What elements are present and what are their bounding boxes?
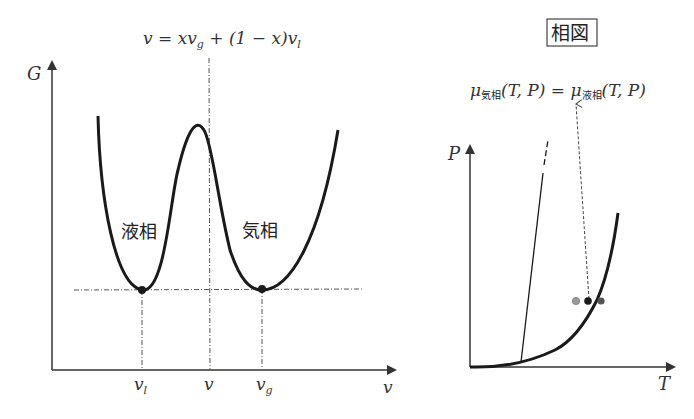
mixing-formula: v = xvg + (1 − x)vl <box>143 28 301 51</box>
tick-label-vl: vl <box>134 374 148 397</box>
gas-state-point <box>597 297 604 304</box>
liquid-phase-label: 液相 <box>121 221 157 242</box>
phase-diagram-title: 相図 <box>551 22 589 44</box>
t-axis-label: T <box>658 373 672 394</box>
equilibrium-pointer-arrow <box>576 104 589 299</box>
gas-minimum-point <box>258 285 266 293</box>
vapor-pressure-curve <box>470 213 618 367</box>
g-axis-label: G <box>27 63 41 84</box>
coexistence-point <box>584 297 592 305</box>
liquid-state-point <box>572 297 579 304</box>
tick-label-v: v <box>204 374 214 394</box>
tick-label-vg: vg <box>256 374 273 397</box>
v-axis-label: v <box>383 377 393 397</box>
chemical-potential-equation: μ気相(T, P) = μ液相(T, P) <box>470 80 646 101</box>
common-tangent-line <box>74 289 362 290</box>
p-axis-label: P <box>447 143 461 164</box>
gibbs-energy-curve <box>98 116 338 290</box>
gas-phase-label: 気相 <box>242 220 278 241</box>
vertical-guide-v <box>209 58 210 370</box>
melting-line <box>521 173 543 362</box>
melting-line-dashed-extension <box>544 140 548 165</box>
diagram: v = xvg + (1 − x)vl G v 液相 気相 vl v vg 相図… <box>0 0 694 419</box>
liquid-minimum-point <box>138 286 146 294</box>
